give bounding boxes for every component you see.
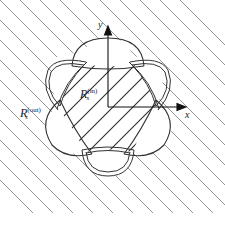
y-axis-label: y [98,20,102,30]
inner-region-label: R(in)s [80,88,89,102]
outer-region-label: R(out)s [20,107,28,121]
upper-right-lobe-inner [132,65,156,106]
bottom-lobe-outer-2 [86,152,130,172]
inner-region-hatching [0,20,210,213]
x-axis-label: x [185,110,189,120]
